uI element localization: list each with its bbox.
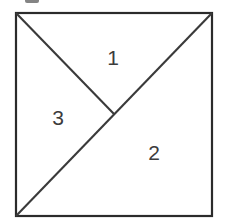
region-3-label: 3 <box>52 106 64 129</box>
tangram-square-diagram: 1 2 3 <box>0 0 227 224</box>
region-2-label: 2 <box>148 141 160 164</box>
region-1-label: 1 <box>107 46 119 69</box>
geometry-figure-container: 1 2 3 <box>0 0 227 224</box>
